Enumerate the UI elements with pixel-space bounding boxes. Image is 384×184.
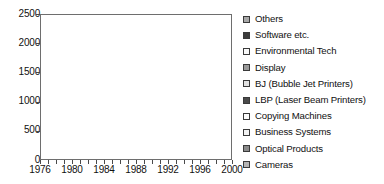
legend-swatch-icon — [243, 113, 250, 120]
legend-item-label: Cameras — [255, 160, 293, 170]
legend: OthersSoftware etc.Environmental TechDis… — [243, 11, 384, 173]
legend-item-label: Copying Machines — [255, 111, 332, 121]
legend-swatch-icon — [243, 145, 250, 152]
legend-item[interactable]: Environmental Tech — [243, 43, 384, 59]
legend-swatch-icon — [243, 64, 250, 71]
y-axis-tick-label: 1500 — [6, 67, 40, 77]
legend-item[interactable]: Business Systems — [243, 124, 384, 140]
legend-item[interactable]: Others — [243, 11, 384, 27]
legend-swatch-icon — [243, 129, 250, 136]
legend-item[interactable]: Software etc. — [243, 27, 384, 43]
legend-swatch-icon — [243, 16, 250, 23]
chart-container: 05001000150020002500 1976198019841988199… — [0, 0, 384, 184]
legend-item-label: Optical Products — [255, 144, 323, 154]
plot-frame — [40, 14, 232, 160]
y-axis-tick-label: 2000 — [6, 38, 40, 48]
legend-item[interactable]: Cameras — [243, 157, 384, 173]
y-axis-tick-label: 500 — [6, 125, 40, 135]
legend-item[interactable]: Optical Products — [243, 141, 384, 157]
legend-swatch-icon — [243, 32, 250, 39]
y-axis-tick-label: 1000 — [6, 96, 40, 106]
legend-item[interactable]: Copying Machines — [243, 108, 384, 124]
legend-item[interactable]: Display — [243, 60, 384, 76]
legend-item-label: Environmental Tech — [255, 46, 336, 56]
y-axis-tick-label: 2500 — [6, 9, 40, 19]
legend-swatch-icon — [243, 48, 250, 55]
legend-item[interactable]: BJ (Bubble Jet Printers) — [243, 76, 384, 92]
legend-item-label: BJ (Bubble Jet Printers) — [255, 79, 353, 89]
legend-item-label: Others — [255, 14, 283, 24]
plot-area: 05001000150020002500 1976198019841988199… — [0, 0, 244, 184]
legend-item-label: Software etc. — [255, 30, 309, 40]
legend-item-label: Display — [255, 63, 285, 73]
legend-item-label: LBP (Laser Beam Printers) — [255, 95, 366, 105]
y-axis: 05001000150020002500 — [0, 0, 40, 184]
legend-swatch-icon — [243, 97, 250, 104]
x-axis: 1976198019841988199219962000 — [0, 160, 244, 184]
legend-swatch-icon — [243, 161, 250, 168]
legend-item-label: Business Systems — [255, 127, 331, 137]
legend-item[interactable]: LBP (Laser Beam Printers) — [243, 92, 384, 108]
legend-swatch-icon — [243, 80, 250, 87]
